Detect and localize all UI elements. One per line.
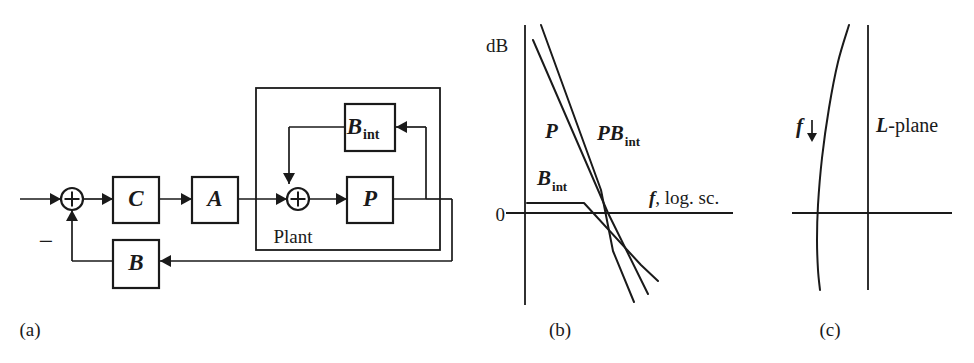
bode-curve-label-subscript-PBint: int [625, 134, 641, 149]
arrow-icon-arrow-into-bint [396, 121, 407, 133]
figure-root: CAPBintB Plant − (a) dB 0 f, log. sc. PP… [0, 0, 974, 363]
block-Bint: Bint [345, 104, 395, 151]
panel-c-l-plane: L-plane f (c) [792, 25, 952, 341]
block-P: P [347, 177, 393, 223]
lplane-frequency-arrow-icon [807, 120, 817, 142]
arrow-icon-arrow-into-C [102, 193, 113, 205]
lplane-locus-curve [817, 25, 849, 290]
panel-c-caption: (c) [819, 319, 840, 341]
panel-a-caption: (a) [19, 319, 40, 341]
lplane-label-rest: -plane [888, 114, 938, 137]
bode-x-axis-label-rest: , log. sc. [655, 187, 719, 208]
lplane-label-symbol: L [875, 114, 888, 136]
arrow-icon-arrow-into-P [336, 193, 347, 205]
arrow-icon-arrow-into-sum-top [283, 173, 295, 184]
block-label-A: A [205, 186, 222, 211]
panel-a-block-diagram: CAPBintB Plant − (a) [19, 88, 452, 341]
block-label-subscript-Bint: int [363, 127, 380, 142]
block-C: C [113, 177, 159, 223]
lplane-frequency-label: f [796, 114, 805, 138]
sum-junction-sum-plant [287, 188, 309, 210]
bode-curve-label-Bint: Bint [536, 166, 568, 194]
block-label-P: P [362, 186, 378, 211]
panel-b-caption: (b) [549, 319, 571, 341]
arrow-icon-arrow-into-sum-input [50, 193, 61, 205]
block-label-C: C [128, 186, 144, 211]
bode-x-axis-label: f, log. sc. [649, 187, 719, 208]
arrow-icon-arrow-into-A [181, 193, 192, 205]
bode-curve-label-PBint: PBint [596, 121, 641, 149]
bode-curves [527, 25, 658, 302]
block-B: B [113, 240, 159, 288]
sum-junction-sum-input [61, 188, 83, 210]
arrow-icon-arrow-into-sum-plant [276, 193, 287, 205]
bode-y-axis-label: dB [486, 35, 508, 56]
bode-zero-tick-label: 0 [496, 204, 506, 225]
arrow-icon-arrow-into-B [160, 255, 171, 267]
figure-canvas: CAPBintB Plant − (a) dB 0 f, log. sc. PP… [0, 0, 974, 363]
bode-curve-label-subscript-Bint: int [552, 179, 568, 194]
plant-label: Plant [273, 226, 313, 247]
block-A: A [192, 177, 238, 223]
panel-b-bode-plot: dB 0 f, log. sc. PPBintBint (b) [486, 25, 733, 341]
negative-feedback-sign: − [39, 227, 54, 256]
bode-curve-label-P: P [544, 119, 558, 143]
lplane-label: L-plane [875, 114, 938, 137]
arrow-icon-arrow-into-sum-bottom [66, 210, 78, 221]
frequency-arrow-head-icon [807, 133, 817, 142]
bode-curve-Bint [527, 203, 658, 281]
block-label-B: B [127, 250, 143, 275]
